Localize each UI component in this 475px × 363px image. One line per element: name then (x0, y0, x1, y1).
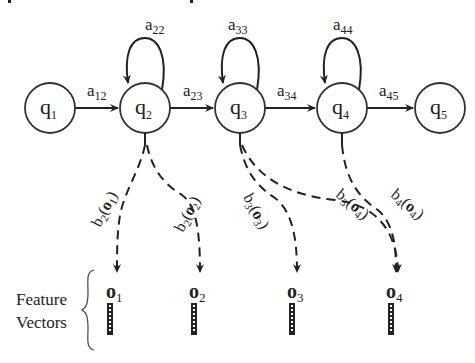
observation-label-o1: o1 (106, 280, 123, 305)
feature-vector-o1 (107, 303, 113, 335)
self-loops (127, 38, 361, 90)
transition-label-a23: a23 (183, 81, 203, 103)
observation-label-o4: o4 (386, 280, 403, 305)
feature-vector-o3 (289, 303, 295, 335)
feature-vector-o2 (191, 303, 197, 335)
emission-label-b2-o1: b2(o1) (88, 188, 122, 230)
observation-label-o3: o3 (287, 280, 304, 305)
hmm-diagram: q1 q2 q3 q4 q5 a12 a23 a34 a45 a22 a33 a… (0, 0, 475, 363)
feature-vector-o4 (388, 303, 394, 335)
brace-icon (82, 270, 94, 350)
observation-label-o2: o2 (189, 280, 206, 305)
emission-label-b3-o4: b3(o4) (332, 185, 373, 224)
loop-label-a44: a44 (333, 15, 353, 37)
feature-label-line1: Feature (16, 290, 67, 309)
loop-label-a22: a22 (145, 15, 165, 37)
cropped-text-fragment (8, 0, 11, 3)
emission-label-b3-o3: b3(o3) (239, 190, 273, 232)
feature-label-line2: Vectors (16, 313, 67, 332)
emission-label-b4-o4: b4(o4) (387, 185, 428, 224)
transition-label-a34: a34 (277, 81, 297, 103)
cropped-text-fragment (190, 0, 193, 3)
emission-label-b2-o2: b2(o2) (171, 193, 205, 235)
emission-q2-o1 (117, 145, 145, 272)
transition-label-a12: a12 (87, 81, 107, 103)
transition-label-a45: a45 (379, 81, 399, 103)
loop-label-a33: a33 (228, 15, 248, 37)
